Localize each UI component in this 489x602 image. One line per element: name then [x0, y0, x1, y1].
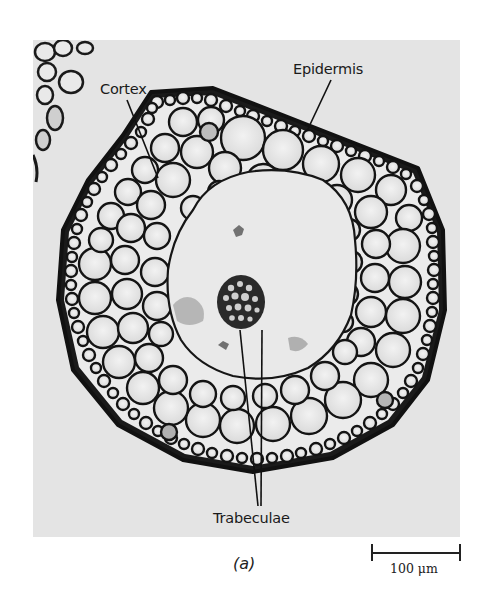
adjacent-tissue-fragment [33, 40, 93, 182]
stem-cross-section-illustration [33, 40, 460, 537]
epidermis-label: Epidermis [293, 62, 363, 77]
panel-label: (a) [233, 556, 255, 572]
scale-bar [371, 543, 461, 563]
epidermis-leader [307, 80, 331, 131]
scale-bar-line [371, 552, 460, 554]
vascular-strand [217, 275, 265, 329]
cortex-label: Cortex [100, 82, 147, 97]
figure: Epidermis Cortex Trabeculae (a) 100 μm [0, 0, 489, 602]
trabeculae-label: Trabeculae [213, 511, 290, 526]
stem [58, 88, 445, 472]
scale-bar-right-tick [459, 544, 461, 561]
trabecula-leader-right [261, 330, 262, 506]
scale-bar-label: 100 μm [390, 563, 438, 576]
micrograph-panel [33, 40, 460, 537]
